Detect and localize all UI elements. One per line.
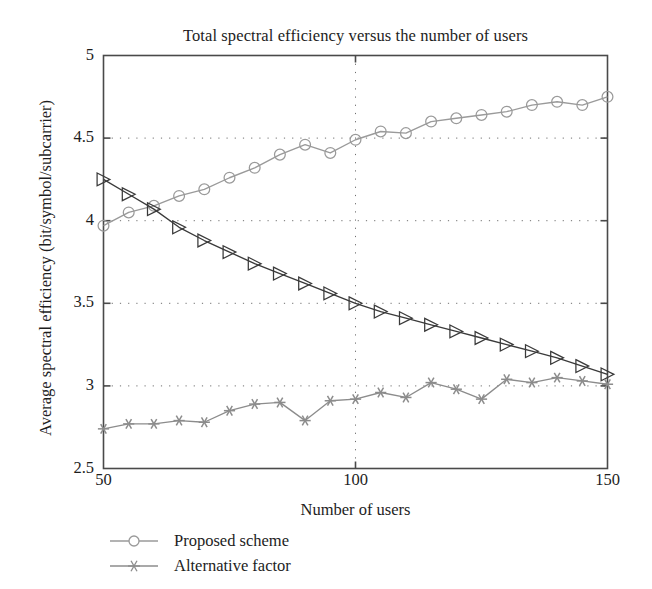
y-tick-label-wrap: 5 <box>48 56 94 57</box>
data-point-marker-asterisk <box>350 394 361 404</box>
data-point-marker-asterisk <box>426 378 437 388</box>
data-point-marker-circle <box>577 100 588 111</box>
data-point-marker-asterisk <box>174 416 185 426</box>
data-point-marker-circle <box>98 220 109 231</box>
data-point-marker-circle <box>350 134 361 145</box>
y-tick-label-wrap: 3 <box>48 386 94 387</box>
data-point-marker-circle <box>426 116 437 127</box>
y-tick-label: 4.5 <box>48 127 94 147</box>
x-tick-label-wrap: 150 <box>568 470 648 471</box>
data-point-marker-circle <box>224 172 235 183</box>
data-point-marker-circle <box>199 184 210 195</box>
data-point-marker-asterisk <box>375 388 386 398</box>
legend-label-proposed-scheme: Proposed scheme <box>174 531 289 551</box>
chart-figure: Total spectral efficiency versus the num… <box>0 0 652 589</box>
legend-marker-asterisk-icon <box>108 556 160 576</box>
legend-marker-circle-icon <box>108 531 160 551</box>
x-tick-label: 150 <box>568 470 648 490</box>
y-tick-label: 3.5 <box>48 292 94 312</box>
data-point-marker-circle <box>300 139 311 150</box>
data-point-marker-circle <box>375 126 386 137</box>
data-point-marker-circle <box>552 96 563 107</box>
x-tick-label-wrap: 100 <box>316 470 396 471</box>
data-point-marker-asterisk <box>224 406 235 416</box>
data-point-marker-asterisk <box>552 373 563 383</box>
legend-label-alternative-factor: Alternative factor <box>174 556 291 576</box>
data-point-marker-circle <box>275 149 286 160</box>
data-point-marker-asterisk <box>526 378 537 388</box>
x-tick-label: 100 <box>316 470 396 490</box>
data-point-marker-circle <box>476 110 487 121</box>
data-point-marker-asterisk <box>249 399 260 409</box>
y-tick-label-wrap: 3.5 <box>48 303 94 304</box>
data-point-marker-circle <box>451 113 462 124</box>
series-line-reference-curve <box>104 179 608 374</box>
data-point-marker-circle <box>401 128 412 139</box>
x-tick-label-wrap: 50 <box>64 470 144 471</box>
data-point-marker-circle <box>325 148 336 159</box>
y-tick-label: 3 <box>48 375 94 395</box>
data-point-marker-circle <box>602 91 613 102</box>
y-tick-label: 5 <box>48 45 94 65</box>
legend-item-proposed-scheme: Proposed scheme <box>108 528 528 553</box>
chart-legend: Proposed scheme Alternative factor <box>108 528 528 578</box>
series-line-proposed-scheme <box>104 97 608 226</box>
data-point-marker-asterisk <box>123 419 134 429</box>
axes-frame <box>104 56 608 469</box>
data-point-marker-circle <box>527 100 538 111</box>
y-tick-label-wrap: 4 <box>48 221 94 222</box>
y-tick-label-wrap: 4.5 <box>48 138 94 139</box>
y-tick-label: 4 <box>48 210 94 230</box>
data-point-marker-circle <box>123 207 134 218</box>
data-point-marker-asterisk <box>400 393 411 403</box>
data-point-marker-circle <box>249 162 260 173</box>
plot-area <box>0 0 652 589</box>
x-tick-label: 50 <box>64 470 144 490</box>
data-point-marker-circle <box>174 191 185 202</box>
data-point-marker-asterisk <box>199 417 210 427</box>
data-point-marker-asterisk <box>577 376 588 386</box>
data-point-marker-asterisk <box>148 419 159 429</box>
data-point-marker-circle <box>501 106 512 117</box>
legend-item-alternative-factor: Alternative factor <box>108 553 528 578</box>
